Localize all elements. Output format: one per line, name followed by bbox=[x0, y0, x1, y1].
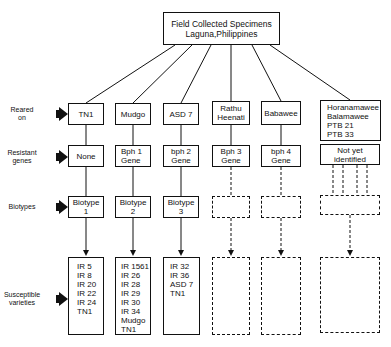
arrow-right-icon bbox=[59, 150, 68, 164]
reared-asd7: ASD 7 bbox=[163, 103, 199, 125]
gene-bph2: bph 2 Gene bbox=[163, 145, 199, 167]
reared-mudgo: Mudgo bbox=[115, 103, 151, 125]
susceptible-list-2: IR 1561 IR 26 IR 28 IR 29 IR 30 IR 34 Mu… bbox=[115, 257, 151, 335]
susceptible-list-4 bbox=[212, 257, 250, 335]
arrow-right-icon bbox=[59, 107, 68, 121]
root-box: Field Collected Specimens Laguna,Philipp… bbox=[163, 12, 280, 45]
reared-horanamawee-group: Horanamawee Balamawee PTB 21 PTB 33 bbox=[320, 100, 381, 141]
gene-bph4: bph 4 Gene bbox=[261, 145, 301, 167]
gene-bph3: Bph 3 Gene bbox=[212, 145, 250, 167]
gene-none: None bbox=[68, 145, 104, 167]
row-label-susceptible: Susceptible varieties bbox=[0, 291, 44, 307]
susceptible-list-5 bbox=[261, 257, 301, 335]
biotype-unknown-6 bbox=[320, 195, 380, 215]
root-title: Field Collected Specimens bbox=[171, 19, 272, 29]
row-label-reared: Reared on bbox=[0, 106, 44, 122]
susceptible-list-3: IR 32 IR 36 ASD 7 TN1 bbox=[163, 257, 200, 335]
gene-bph1: Bph 1 Gene bbox=[115, 145, 151, 167]
susceptible-list-1: IR 5 IR 8 IR 20 IR 22 IR 24 TN1 bbox=[68, 257, 104, 335]
biotype-1: Biotype 1 bbox=[68, 196, 104, 218]
biotype-2: Biotype 2 bbox=[115, 196, 151, 218]
reared-babawee: Babawee bbox=[261, 101, 301, 125]
biotype-unknown-5 bbox=[261, 196, 301, 218]
row-label-biotypes: Biotypes bbox=[0, 203, 44, 211]
gene-not-identified: Not yet identified bbox=[320, 144, 380, 165]
biotype-unknown-4 bbox=[212, 196, 250, 218]
row-label-genes: Resistant genes bbox=[0, 149, 44, 165]
biotype-3: Biotype 3 bbox=[163, 196, 199, 218]
reared-rathu-heenati: Rathu Heenati bbox=[212, 101, 250, 125]
arrow-right-icon bbox=[59, 292, 68, 306]
root-location: Laguna,Philippines bbox=[186, 29, 258, 39]
reared-tn1: TN1 bbox=[68, 103, 104, 125]
arrow-right-icon bbox=[59, 200, 68, 214]
susceptible-list-6 bbox=[320, 257, 380, 333]
